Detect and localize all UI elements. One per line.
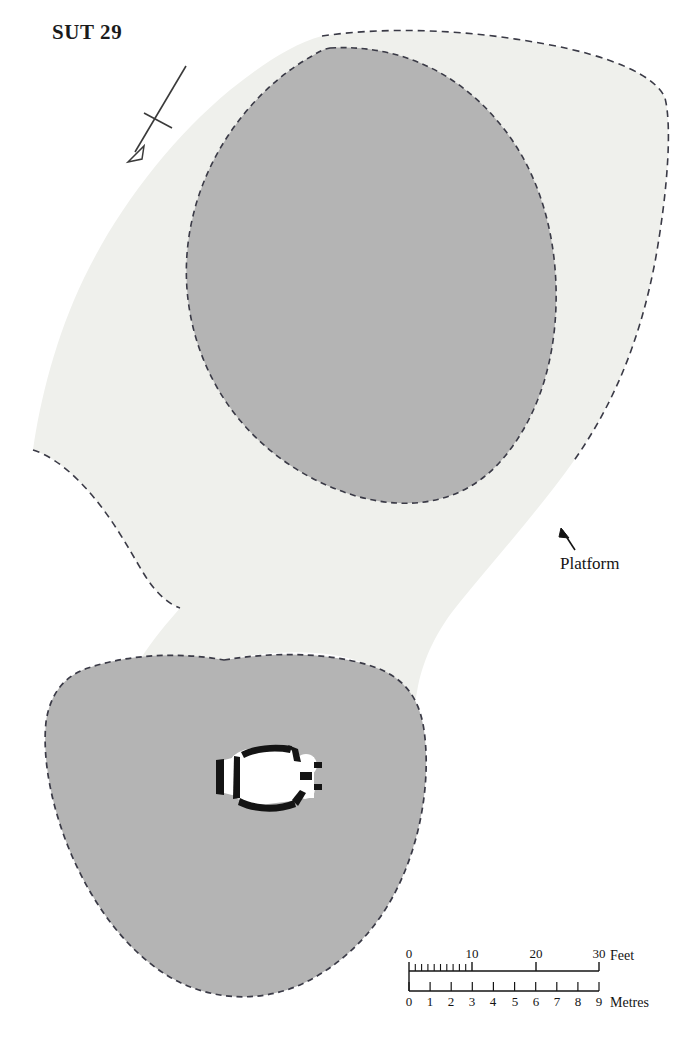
- north-arrow-cross-tick: [144, 113, 172, 128]
- structure-wall-east-outer: [314, 762, 322, 768]
- metres-tick-label-5: 5: [512, 994, 519, 1010]
- structure-wall-east-outer-2: [314, 784, 322, 790]
- feet-tick-label-30: 30: [593, 946, 606, 962]
- structure-wall-east-notch: [300, 772, 312, 780]
- north-arrow-head: [128, 146, 144, 162]
- metres-tick-label-3: 3: [469, 994, 476, 1010]
- metres-tick-label-4: 4: [490, 994, 497, 1010]
- platform-label: Platform: [560, 554, 620, 574]
- scale-bar: [409, 962, 599, 991]
- feet-minor-ticks: [415, 964, 465, 971]
- metres-tick-label-1: 1: [427, 994, 434, 1010]
- metres-tick-label-6: 6: [533, 994, 540, 1010]
- metres-tick-label-0: 0: [406, 994, 413, 1010]
- structure-wall-west-inner: [233, 756, 240, 799]
- structure-wall-west-outer: [216, 759, 224, 795]
- metres-tick-label-7: 7: [554, 994, 561, 1010]
- feet-tick-label-20: 20: [530, 946, 543, 962]
- metres-tick-label-9: 9: [596, 994, 603, 1010]
- platform-pointer-arrow: [559, 528, 575, 550]
- lower-mound-shape: [45, 655, 426, 997]
- metres-ticks: [409, 982, 599, 991]
- scale-metres-unit-label: Metres: [610, 995, 649, 1011]
- plan-drawing: [0, 0, 679, 1047]
- feet-tick-label-0: 0: [406, 946, 413, 962]
- metres-tick-label-2: 2: [448, 994, 455, 1010]
- metres-tick-label-8: 8: [575, 994, 582, 1010]
- scale-feet-unit-label: Feet: [610, 948, 634, 964]
- north-arrow-shaft: [135, 66, 186, 152]
- page-title: SUT 29: [52, 20, 122, 45]
- scale-bar-metres: [409, 982, 599, 991]
- site-plan-figure: SUT 29 Platform Feet Metres 0 10 20 30 0…: [0, 0, 679, 1047]
- feet-tick-label-10: 10: [466, 946, 479, 962]
- scale-bar-feet: [409, 962, 599, 971]
- platform-arrow-head: [559, 528, 569, 538]
